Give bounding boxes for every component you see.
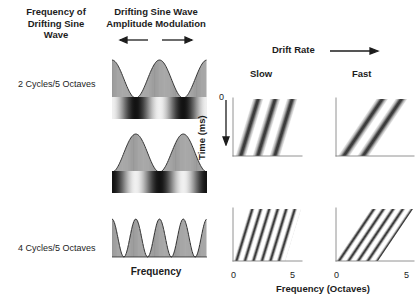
- xtick-left-0: 0: [231, 270, 236, 281]
- xtick-right-0: 0: [334, 270, 339, 281]
- axis-label-frequency-octaves: Frequency (Octaves): [228, 283, 418, 294]
- waveform-2cycles-phase180: [112, 131, 207, 173]
- axis-label-frequency: Frequency: [104, 266, 208, 277]
- gradient-bar-phase0: [112, 97, 207, 119]
- waveform-4cycles: [112, 216, 207, 258]
- header-amplitude-modulation: Drifting Sine Wave Amplitude Modulation: [104, 6, 208, 29]
- plot-fast-4cycles: [331, 206, 415, 269]
- waveform-2cycles-phase0: [112, 57, 207, 99]
- header-fast: Fast: [352, 68, 372, 79]
- figure-canvas: Frequency of Drifting Sine Wave Drifting…: [0, 0, 418, 303]
- gradient-bar-phase180: [112, 171, 207, 193]
- axis-label-time: Time (ms): [196, 115, 207, 160]
- header-drift-rate: Drift Rate: [272, 44, 315, 55]
- row-label-2-cycles: 2 Cycles/5 Octaves: [18, 79, 96, 90]
- header-frequency-of-drifting-sine-wave: Frequency of Drifting Sine Wave: [8, 6, 104, 41]
- plot-slow-2cycles: [228, 96, 303, 164]
- arrow-right-icon: [330, 45, 380, 57]
- xtick-left-5: 5: [290, 270, 295, 281]
- plot-fast-2cycles: [331, 96, 415, 164]
- row-label-4-cycles: 4 Cycles/5 Octaves: [18, 243, 96, 254]
- amplitude-modulation-arrows: [110, 33, 202, 47]
- header-slow: Slow: [250, 68, 272, 79]
- plot-slow-4cycles: [228, 206, 303, 269]
- xtick-right-5: 5: [404, 270, 409, 281]
